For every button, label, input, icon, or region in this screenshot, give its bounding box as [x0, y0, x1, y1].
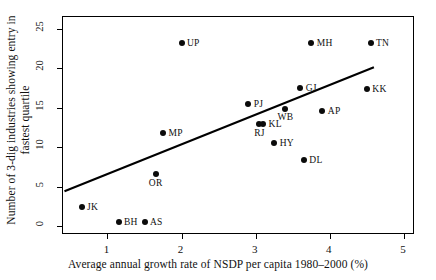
data-point-label: MP [169, 128, 183, 138]
data-point [260, 121, 266, 127]
x-axis-tick [107, 233, 108, 239]
data-point-label: AP [328, 106, 341, 116]
data-point [271, 140, 277, 146]
data-point [179, 40, 185, 46]
data-point [319, 108, 325, 114]
x-axis-tick-label: 5 [393, 243, 413, 255]
data-point-label: BH [124, 217, 138, 227]
data-point [297, 85, 303, 91]
data-point-label: DL [309, 155, 322, 165]
y-axis-tick-label: 10 [34, 134, 45, 156]
data-point [282, 106, 288, 112]
data-point-label: GJ [306, 83, 317, 93]
data-point-label: RJ [254, 128, 264, 138]
x-axis-tick-label: 4 [319, 243, 339, 255]
data-point [301, 157, 307, 163]
data-point [160, 130, 166, 136]
scatter-series: JKBHASORMPUPPJRJKLHYWBGJDLMHAPKKTN [63, 17, 413, 233]
x-axis-tick [330, 233, 331, 239]
x-axis-tick-label: 2 [171, 243, 191, 255]
y-axis-tick-label: 15 [34, 94, 45, 116]
y-axis-tick-label: 0 [34, 213, 45, 235]
data-point [142, 219, 148, 225]
data-point-label: MH [317, 38, 333, 48]
data-point [308, 40, 314, 46]
data-point-label: UP [187, 38, 200, 48]
data-point-label: OR [149, 178, 163, 188]
data-point-label: PJ [254, 99, 263, 109]
data-point [116, 219, 122, 225]
y-axis-tick-label: 25 [34, 15, 45, 37]
data-point-label: JK [87, 202, 98, 212]
y-axis-tick-label: 5 [34, 173, 45, 195]
x-axis-tick [256, 233, 257, 239]
x-axis-tick [404, 233, 405, 239]
data-point [368, 40, 374, 46]
data-point [364, 86, 370, 92]
x-axis-tick [182, 233, 183, 239]
data-point [79, 204, 85, 210]
x-axis-tick-label: 1 [96, 243, 116, 255]
chart-figure: Number of 3-dig industries showing entry… [0, 0, 436, 280]
x-axis-tick-label: 3 [245, 243, 265, 255]
x-axis-title: Average annual growth rate of NSDP per c… [0, 258, 436, 270]
y-axis-title-line2: fastest quartile [18, 15, 32, 224]
data-point [245, 101, 251, 107]
data-point-label: WB [277, 112, 293, 122]
y-axis-title: Number of 3-dig industries showing entry… [0, 0, 36, 240]
data-point-label: KK [372, 84, 386, 94]
plot-area: JKBHASORMPUPPJRJKLHYWBGJDLMHAPKKTN [62, 16, 414, 234]
data-point-label: AS [150, 217, 163, 227]
y-axis-title-line1: Number of 3-dig industries showing entry… [5, 15, 17, 224]
data-point-label: TN [376, 38, 389, 48]
data-point-label: HY [280, 138, 294, 148]
data-point [153, 171, 159, 177]
y-axis-tick-label: 20 [34, 55, 45, 77]
